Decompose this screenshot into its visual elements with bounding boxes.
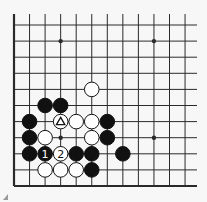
black-stone: 1 <box>38 147 53 162</box>
star-point-icon <box>58 39 62 43</box>
white-stone <box>69 163 84 178</box>
black-stone <box>100 130 115 145</box>
white-stone <box>84 130 99 145</box>
move-number: 2 <box>57 148 64 161</box>
star-point-icon <box>152 136 156 140</box>
white-stone <box>84 114 99 129</box>
black-stone <box>69 147 84 162</box>
white-stone: 2 <box>53 147 68 162</box>
black-stone <box>84 147 99 162</box>
page-fold-mark <box>3 194 8 200</box>
black-stone <box>38 98 53 113</box>
black-stone <box>100 114 115 129</box>
star-point-icon <box>58 136 62 140</box>
black-stone <box>22 114 37 129</box>
white-stone <box>84 82 99 97</box>
white-stone <box>69 114 84 129</box>
white-stone <box>38 163 53 178</box>
white-stone <box>38 130 53 145</box>
star-point-icon <box>152 39 156 43</box>
black-stone <box>22 147 37 162</box>
black-stone <box>116 147 131 162</box>
black-stone <box>53 98 68 113</box>
move-number: 1 <box>42 148 49 161</box>
white-stone <box>53 163 68 178</box>
white-stone <box>53 114 68 129</box>
black-stone <box>22 130 37 145</box>
go-board: 12 <box>0 0 207 202</box>
black-stone <box>84 163 99 178</box>
